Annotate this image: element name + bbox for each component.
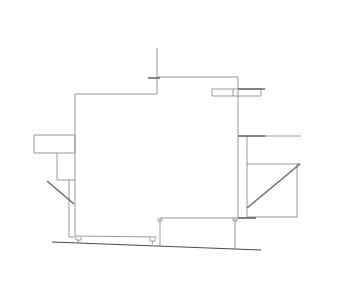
foot-middle [150, 238, 155, 244]
main-bottom-line [75, 236, 157, 237]
left-post [69, 180, 75, 237]
main-bottom-step [160, 218, 256, 246]
right-lower-box [247, 164, 300, 217]
left-diagonal-brace [47, 181, 74, 204]
elevation-drawing [0, 0, 351, 302]
main-building-outline [75, 77, 238, 236]
left-canopy-box [34, 135, 75, 153]
right-top-ledge-box [212, 89, 261, 96]
diagram-canvas [0, 0, 351, 302]
right-diagonal-brace [247, 164, 300, 208]
foot-left [76, 237, 81, 243]
left-lower-box [57, 153, 75, 180]
ground-line [52, 242, 261, 250]
